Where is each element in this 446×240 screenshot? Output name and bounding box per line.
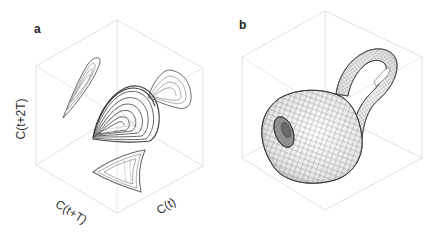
projection-bottom (93, 150, 145, 192)
projection-right (148, 70, 191, 108)
klein-bottle-plot (223, 0, 446, 240)
axis-label-c-t-plus-2t: C(t+2T) (14, 98, 28, 139)
panel-a: a (0, 0, 223, 240)
panel-b: b (223, 0, 446, 240)
attractor-plot (0, 0, 223, 240)
projection-left (63, 58, 100, 118)
